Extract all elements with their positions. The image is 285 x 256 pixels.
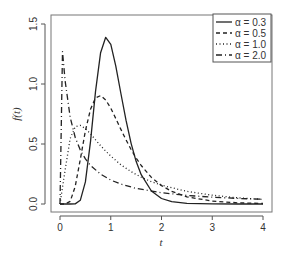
legend-label: α = 2.0: [235, 50, 267, 61]
legend: α = 0.3α = 0.5α = 1.0α = 2.0: [213, 14, 271, 62]
x-axis: 01234: [57, 216, 266, 233]
chart: 0.00.51.01.5 01234 f(t) t α = 0.3α = 0.5…: [0, 0, 285, 256]
series-line-3: [60, 52, 263, 204]
legend-label: α = 0.3: [235, 17, 267, 28]
legend-label: α = 1.0: [235, 39, 267, 50]
y-tick-label: 0.5: [28, 137, 39, 151]
y-tick-label: 0.0: [28, 197, 39, 211]
y-tick-label: 1.5: [28, 17, 39, 31]
x-tick-label: 0: [57, 222, 63, 233]
y-axis-title: f(t): [10, 107, 23, 121]
x-axis-title: t: [159, 236, 163, 248]
x-tick-label: 2: [159, 222, 165, 233]
y-axis: 0.00.51.01.5: [28, 17, 45, 211]
x-tick-label: 1: [108, 222, 114, 233]
y-tick-label: 1.0: [28, 77, 39, 91]
series-line-1: [60, 96, 263, 204]
legend-label: α = 0.5: [235, 28, 267, 39]
x-tick-label: 4: [260, 222, 266, 233]
x-tick-label: 3: [209, 222, 215, 233]
